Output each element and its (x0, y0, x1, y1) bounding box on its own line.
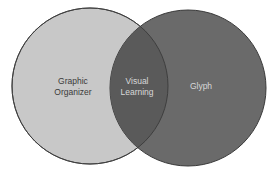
label-graphic-organizer-line1: Graphic (58, 76, 89, 86)
venn-diagram: Graphic Organizer Visual Learning Glyph (0, 0, 277, 175)
label-graphic-organizer-line2: Organizer (54, 87, 91, 97)
label-visual-learning-line1: Visual (126, 76, 149, 86)
label-visual-learning-line2: Learning (120, 87, 153, 97)
label-glyph: Glyph (190, 81, 212, 91)
